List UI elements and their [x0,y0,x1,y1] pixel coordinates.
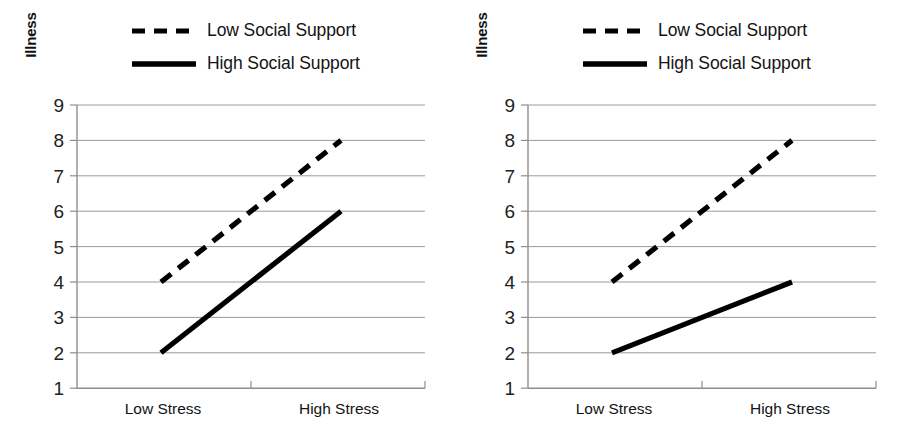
y-tick-label: 9 [53,95,64,116]
y-tick-label: 3 [504,307,515,328]
x-tick-label: Low Stress [576,400,653,417]
gridlines [77,105,425,353]
plot-area-left: 9 8 7 6 5 4 3 2 1 Low Stress High Stress [0,0,451,446]
y-tick-label: 2 [53,343,64,364]
y-tick-labels: 9 8 7 6 5 4 3 2 1 [53,95,64,399]
x-tick-label: Low Stress [125,400,202,417]
y-tick-marks [521,105,528,388]
y-tick-marks [70,105,77,388]
chart-panel-left: Low Social Support High Social Support I… [0,0,451,446]
y-tick-label: 4 [504,272,515,293]
y-tick-label: 5 [504,237,515,258]
y-tick-labels: 9 8 7 6 5 4 3 2 1 [504,95,515,399]
y-tick-label: 2 [504,343,515,364]
x-tick-label: High Stress [750,400,830,417]
y-tick-label: 3 [53,307,64,328]
figure-canvas: Low Social Support High Social Support I… [0,0,903,446]
y-tick-label: 1 [504,378,515,399]
y-tick-label: 8 [504,130,515,151]
y-tick-label: 6 [53,201,64,222]
y-tick-label: 5 [53,237,64,258]
y-tick-label: 8 [53,130,64,151]
y-tick-label: 6 [504,201,515,222]
plot-area-right: 9 8 7 6 5 4 3 2 1 Low Stress High Stress [451,0,902,446]
x-tick-label: High Stress [299,400,379,417]
y-tick-label: 7 [53,166,64,187]
y-tick-label: 7 [504,166,515,187]
y-tick-label: 4 [53,272,64,293]
x-tick-labels: Low Stress High Stress [125,400,380,417]
y-tick-label: 1 [53,378,64,399]
y-tick-label: 9 [504,95,515,116]
x-tick-labels: Low Stress High Stress [576,400,831,417]
chart-panel-right: Low Social Support High Social Support I… [451,0,902,446]
